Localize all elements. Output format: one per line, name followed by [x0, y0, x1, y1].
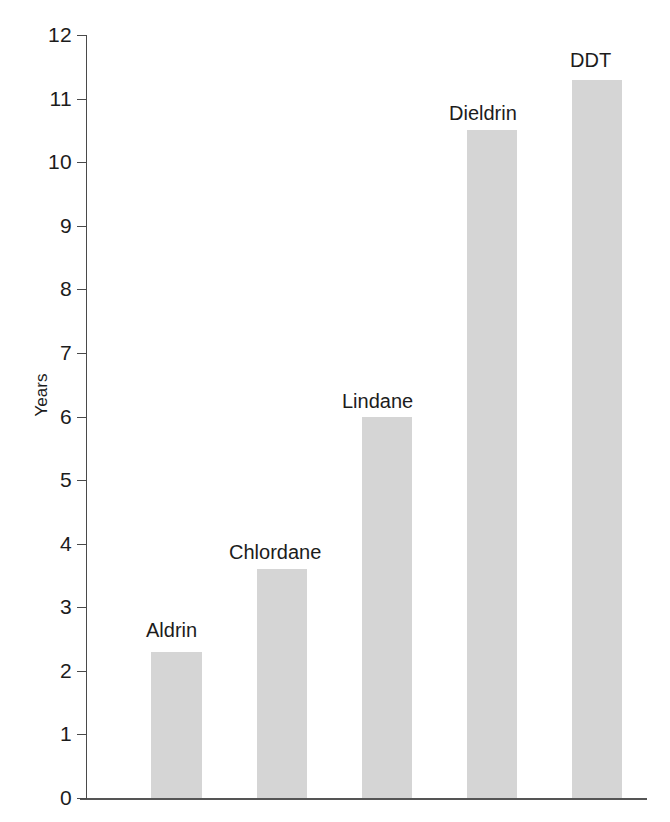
- bar-chart: Years 0123456789101112 AldrinChlordaneLi…: [0, 0, 670, 822]
- bar-lindane: [362, 417, 412, 799]
- y-axis-tick-label: 6: [24, 406, 72, 427]
- bar-ddt: [572, 80, 622, 798]
- y-axis-tick: [77, 480, 87, 481]
- y-axis-tick-label-text: 7: [32, 342, 72, 363]
- y-axis-tick: [77, 607, 87, 608]
- y-axis-tick-label-text: 5: [32, 469, 72, 490]
- y-axis-tick-label-text: 9: [32, 215, 72, 236]
- bar-label-aldrin: Aldrin: [146, 619, 197, 641]
- y-axis-tick: [77, 289, 87, 290]
- y-axis-tick-label-text: 3: [32, 596, 72, 617]
- y-axis-tick: [77, 353, 87, 354]
- y-axis-tick-label-text: 0: [32, 787, 72, 808]
- y-axis-tick-label-text: 11: [32, 88, 72, 109]
- y-axis-tick-label-text: 8: [32, 278, 72, 299]
- bar-label-dieldrin: Dieldrin: [449, 102, 517, 124]
- y-axis-tick: [77, 544, 87, 545]
- y-axis-tick-label: 0: [24, 787, 72, 808]
- bar-chlordane: [257, 569, 307, 798]
- y-axis-tick-label: 1: [24, 723, 72, 744]
- y-axis-tick-label-text: 6: [32, 406, 72, 427]
- bar-label-ddt: DDT: [570, 49, 611, 71]
- x-axis-line: [80, 798, 647, 800]
- y-axis-tick-label: 10: [24, 151, 72, 172]
- y-axis-tick-label: 11: [24, 88, 72, 109]
- y-axis-tick-label-text: 2: [32, 660, 72, 681]
- y-axis-tick-label: 8: [24, 278, 72, 299]
- y-axis-tick-label: 3: [24, 596, 72, 617]
- y-axis-tick-label: 12: [24, 24, 72, 45]
- y-axis-tick: [77, 226, 87, 227]
- y-axis-tick-label-text: 12: [32, 24, 72, 45]
- y-axis-tick-label: 5: [24, 469, 72, 490]
- bar-dieldrin: [467, 130, 517, 798]
- bar-label-chlordane: Chlordane: [229, 541, 321, 563]
- y-axis-tick: [77, 35, 87, 36]
- y-axis-tick-label: 7: [24, 342, 72, 363]
- y-axis-tick: [77, 99, 87, 100]
- y-axis-tick-label: 4: [24, 533, 72, 554]
- y-axis-tick: [77, 162, 87, 163]
- y-axis-tick-label-text: 4: [32, 533, 72, 554]
- bar-label-lindane: Lindane: [342, 390, 413, 412]
- bar-aldrin: [151, 652, 202, 798]
- y-axis-tick: [77, 417, 87, 418]
- y-axis-tick-label: 9: [24, 215, 72, 236]
- y-axis-tick: [77, 734, 87, 735]
- y-axis-tick: [77, 798, 87, 799]
- y-axis-tick-label-text: 10: [32, 151, 72, 172]
- y-axis-tick-label-text: 1: [32, 723, 72, 744]
- y-axis-tick-label: 2: [24, 660, 72, 681]
- y-axis-tick: [77, 671, 87, 672]
